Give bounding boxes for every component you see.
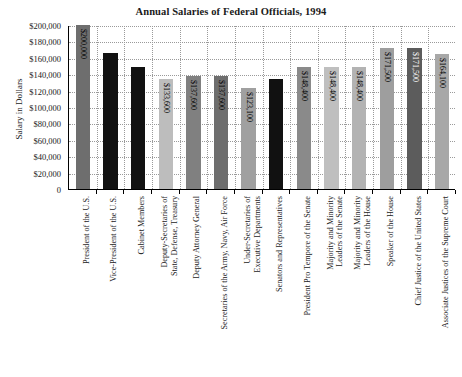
x-axis-category-label: State, Defense, Treasury [170, 196, 179, 374]
x-axis-category-label: Associate Justices of the Supreme Court [441, 196, 450, 374]
x-axis-tick [317, 190, 318, 194]
x-axis-category-label: Under-Secretaries of [243, 196, 252, 374]
bar-value-label: $133,600 [161, 83, 170, 113]
bar: $133,600 [159, 79, 173, 189]
bar-value-label: $148,400 [327, 71, 336, 101]
bar-value-label: $164,100 [438, 58, 447, 88]
y-axis-tick-label: $120,000 [29, 87, 61, 96]
x-axis-category-label: Executive Departments [253, 196, 262, 374]
y-axis-tick-label: 0 [57, 186, 61, 195]
y-axis-tick-label: $140,000 [29, 71, 61, 80]
x-axis-category-labels: President of the U.S.Vice-President of t… [68, 196, 455, 374]
x-axis-category-label: Cabinet Members [137, 196, 146, 374]
x-axis-category-label: Chief Justice of the United States [414, 196, 423, 374]
x-axis-tick [151, 190, 152, 194]
y-axis-tick-label: $80,000 [33, 120, 61, 129]
x-axis-tick [289, 190, 290, 194]
y-axis-tick-label: $100,000 [29, 104, 61, 113]
bar: $137,600 [214, 76, 228, 189]
bar [131, 67, 145, 189]
bar: $148,400 [297, 67, 311, 189]
x-axis-category-label: Leaders of the House [363, 196, 372, 374]
x-axis-tick [344, 190, 345, 194]
x-axis-category-label: President of the U.S. [82, 196, 91, 374]
bar-value-label: $171,500 [410, 52, 419, 82]
bar: $123,100 [241, 88, 255, 189]
x-axis-category-label: President Pro Tempore of the Senate [303, 196, 312, 374]
bar: $164,100 [435, 54, 449, 189]
bar: $148,400 [324, 67, 338, 189]
y-axis-tick-label: $180,000 [29, 38, 61, 47]
bar: $148,400 [352, 67, 366, 189]
bar-value-label: $123,100 [244, 92, 253, 122]
bar-value-label: $171,500 [382, 52, 391, 82]
x-axis-category-label: Speaker of the House [386, 196, 395, 374]
bar: $171,500 [380, 48, 394, 189]
chart-title: Annual Salaries of Federal Officials, 19… [0, 6, 462, 17]
bars-layer: $200,000$133,600$137,600$137,600$123,100… [69, 26, 455, 189]
x-axis-category-label: Majority and Minority [326, 196, 335, 374]
x-axis-tick [234, 190, 235, 194]
bar [103, 53, 117, 189]
x-axis-tick-marks [68, 190, 455, 195]
x-axis-tick [206, 190, 207, 194]
y-axis-tick-labels: $200,000$180,000$160,000$140,000$120,000… [8, 26, 64, 190]
bar: $137,600 [186, 76, 200, 189]
x-axis-tick [400, 190, 401, 194]
x-axis-category-label: Majority and Minority [353, 196, 362, 374]
bar: $200,000 [76, 25, 90, 189]
x-axis-category-label: Senators and Representatives [275, 196, 284, 374]
x-axis-category-label: Deputy Attorney General [192, 196, 201, 374]
y-axis-tick-label: $20,000 [33, 169, 61, 178]
x-axis-tick [262, 190, 263, 194]
x-axis-tick [96, 190, 97, 194]
y-axis-tick-label: $40,000 [33, 153, 61, 162]
x-axis-tick [455, 190, 456, 194]
bar-value-label: $137,600 [189, 80, 198, 110]
y-axis-tick-label: $60,000 [33, 136, 61, 145]
bar-value-label: $137,600 [217, 80, 226, 110]
x-axis-tick [427, 190, 428, 194]
x-axis-category-label: Deputy-Secretaries of [160, 196, 169, 374]
plot-area: $200,000$133,600$137,600$137,600$123,100… [68, 26, 455, 190]
bar-chart: Annual Salaries of Federal Officials, 19… [0, 0, 462, 377]
bar-value-label: $200,000 [78, 29, 87, 59]
bar [269, 79, 283, 189]
x-axis-tick [123, 190, 124, 194]
x-axis-category-label: Vice-President of the U.S. [109, 196, 118, 374]
x-axis-category-label: Secretaries of the Army, Navy, Air Force [220, 196, 229, 374]
x-axis-category-label: Leaders of the Senate [335, 196, 344, 374]
x-axis-tick [372, 190, 373, 194]
y-axis-tick-label: $200,000 [29, 22, 61, 31]
bar: $171,500 [407, 48, 421, 189]
x-axis-tick [179, 190, 180, 194]
bar-value-label: $148,400 [299, 71, 308, 101]
bar-value-label: $148,400 [355, 71, 364, 101]
y-axis-tick-label: $160,000 [29, 54, 61, 63]
